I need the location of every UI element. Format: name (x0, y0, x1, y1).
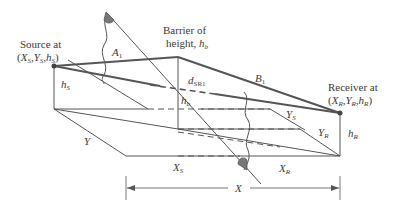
label-Y: Y (84, 135, 92, 147)
source-to-barrier-base (54, 109, 178, 129)
label-XS: XS (172, 161, 184, 175)
barrier-label-line2: height, hb (166, 37, 209, 51)
label-hS: hS (61, 78, 71, 92)
label-XR: XR (278, 162, 291, 176)
label-dSR1: dSR1 (188, 74, 206, 88)
source-label-line2: (XS,YS,hS) (17, 51, 59, 65)
label-YR: YR (318, 126, 329, 140)
label-B1: B1 (255, 72, 266, 86)
receiver-label-line2: (XR,YR,hR) (328, 94, 372, 108)
ray-direct-2 (215, 94, 340, 113)
barrier-to-receiver-base (178, 129, 340, 156)
receiver-label-line1: Receiver at (328, 81, 378, 93)
label-X: X (234, 182, 243, 194)
ray-direct (54, 66, 160, 86)
angle-wedge-bottom-icon (238, 158, 247, 170)
angle-wedge-top-icon (104, 12, 114, 23)
label-YS: YS (286, 108, 296, 122)
receiver-point (338, 111, 343, 116)
wavy-line-top (102, 14, 107, 84)
ray-A1 (54, 57, 178, 66)
label-A1: A1 (111, 46, 123, 60)
label-hb: hb (181, 94, 191, 108)
dashed-source-to-barrier-line (178, 132, 280, 147)
barrier-diagram: Source at (XS,YS,hS) Barrier of height, … (0, 0, 399, 214)
barrier-label-line1: Barrier of (163, 24, 206, 36)
label-hR: hR (348, 127, 359, 141)
ground-Y-edge (54, 109, 126, 156)
source-ground-diagonal (68, 60, 148, 109)
source-label-line1: Source at (20, 38, 61, 50)
